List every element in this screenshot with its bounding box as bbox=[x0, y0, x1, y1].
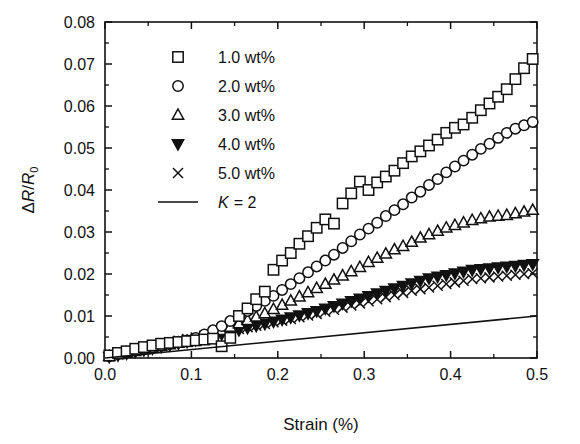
svg-text:ΔR/R0: ΔR/R0 bbox=[19, 167, 40, 214]
data-point-open-square bbox=[502, 84, 512, 94]
y-tick-label: 0.03 bbox=[64, 224, 95, 241]
data-point-open-triangle-up bbox=[172, 109, 183, 119]
data-point-open-square bbox=[337, 198, 347, 208]
data-point-filled-triangle-down bbox=[172, 140, 183, 150]
x-tick-label: 0.2 bbox=[267, 366, 289, 383]
y-tick-label: 0.06 bbox=[64, 98, 95, 115]
data-point-open-square bbox=[173, 52, 183, 62]
data-point-open-square bbox=[527, 54, 537, 64]
data-point-open-circle bbox=[173, 81, 183, 91]
data-point-open-square bbox=[225, 333, 235, 343]
legend-item: K= 2 bbox=[158, 194, 256, 211]
legend-label: 4.0 wt% bbox=[218, 136, 275, 153]
x-tick-label: 0.5 bbox=[526, 366, 548, 383]
legend-item: 2.0 wt% bbox=[173, 78, 275, 95]
y-tick-label: 0.04 bbox=[64, 182, 95, 199]
data-point-open-square bbox=[510, 74, 520, 84]
y-tick-labels: 0.000.010.020.030.040.050.060.070.08 bbox=[64, 14, 95, 367]
data-point-open-circle bbox=[527, 117, 537, 127]
y-tick-label: 0.08 bbox=[64, 14, 95, 31]
legend-item: 5.0 wt% bbox=[173, 165, 275, 182]
scatter-plot: 0.00.10.20.30.40.5 0.000.010.020.030.040… bbox=[0, 0, 580, 444]
legend-label: 3.0 wt% bbox=[218, 107, 275, 124]
legend-label: 5.0 wt% bbox=[218, 165, 275, 182]
y-tick-label: 0.05 bbox=[64, 140, 95, 157]
data-point-open-square bbox=[329, 218, 339, 228]
y-axis-title: ΔR/R0 bbox=[19, 167, 40, 214]
y-tick-label: 0.02 bbox=[64, 266, 95, 283]
x-tick-label: 0.1 bbox=[180, 366, 202, 383]
y-tick-label: 0.00 bbox=[64, 350, 95, 367]
series-10wt bbox=[104, 54, 538, 361]
legend-label: 2.0 wt% bbox=[218, 78, 275, 95]
x-tick-labels: 0.00.10.20.30.40.5 bbox=[94, 366, 548, 383]
x-tick-label: 0.3 bbox=[353, 366, 375, 383]
figure-container: 0.00.10.20.30.40.5 0.000.010.020.030.040… bbox=[0, 0, 580, 444]
legend-item: 1.0 wt% bbox=[173, 49, 275, 66]
legend-label: K= 2 bbox=[218, 194, 256, 211]
y-tick-label: 0.01 bbox=[64, 308, 95, 325]
y-tick-label: 0.07 bbox=[64, 56, 95, 73]
data-point-open-square bbox=[346, 188, 356, 198]
legend-item: 4.0 wt% bbox=[172, 136, 275, 153]
x-tick-label: 0.0 bbox=[94, 366, 116, 383]
x-axis-title: Strain (%) bbox=[283, 415, 359, 434]
data-point-open-square bbox=[260, 286, 270, 296]
legend-item: 3.0 wt% bbox=[172, 107, 275, 124]
chart-legend: 1.0 wt%2.0 wt%3.0 wt%4.0 wt%5.0 wt%K= 2 bbox=[158, 49, 275, 211]
series-20wt bbox=[104, 117, 538, 362]
x-tick-label: 0.4 bbox=[439, 366, 461, 383]
legend-label: 1.0 wt% bbox=[218, 49, 275, 66]
data-series-group bbox=[104, 54, 539, 363]
